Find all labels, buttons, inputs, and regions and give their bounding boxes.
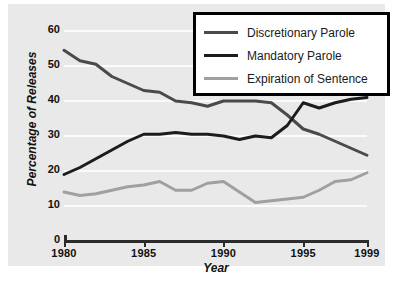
x-axis-tick-label: 1999 (345, 247, 389, 259)
legend-item: Expiration of Sentence (204, 67, 387, 90)
legend-color-swatch (204, 31, 238, 34)
y-axis-tick-label: 40 (34, 93, 60, 105)
x-axis-tick (144, 240, 146, 247)
legend-item-label: Mandatory Parole (247, 49, 342, 63)
x-axis-tick (367, 240, 369, 247)
chart-panel: Percentage of Releases 0102030405060 198… (8, 4, 385, 266)
x-axis-tick-label: 1980 (42, 247, 86, 259)
y-axis-tick-labels: 0102030405060 (24, 4, 60, 266)
legend-color-swatch (204, 77, 238, 80)
x-axis-tick (223, 240, 225, 247)
y-axis-tick-label: 10 (34, 198, 60, 210)
x-axis-tick-label: 1995 (281, 247, 325, 259)
legend-color-swatch (204, 54, 238, 57)
legend-item-label: Expiration of Sentence (247, 72, 368, 86)
chart-page: Percentage of Releases 0102030405060 198… (0, 0, 393, 288)
x-axis-tick-label: 1990 (201, 247, 245, 259)
y-axis-tick-label: 50 (34, 58, 60, 70)
chart-legend: Discretionary ParoleMandatory ParoleExpi… (193, 12, 390, 96)
x-axis-title: Year (64, 261, 368, 275)
legend-item: Mandatory Parole (204, 44, 387, 67)
y-axis-tick-label: 0 (34, 233, 60, 245)
y-axis-tick-label: 20 (34, 163, 60, 175)
y-axis-tick-label: 30 (34, 128, 60, 140)
legend-item: Discretionary Parole (204, 21, 387, 44)
y-axis-tick-label: 60 (34, 23, 60, 35)
x-axis-line (64, 240, 368, 243)
x-axis-tick-label: 1985 (122, 247, 166, 259)
legend-item-label: Discretionary Parole (247, 26, 355, 40)
x-axis-tick (303, 240, 305, 247)
series-line (64, 173, 367, 203)
x-axis-tick (64, 240, 66, 247)
